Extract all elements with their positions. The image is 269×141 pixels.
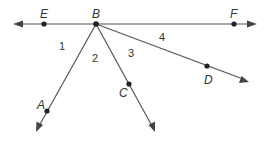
- label-d: D: [204, 73, 213, 87]
- point-a: [44, 108, 49, 113]
- ray-bd: [96, 24, 243, 79]
- label-a: A: [36, 98, 45, 112]
- angle-4: 4: [159, 31, 165, 43]
- geometry-diagram: E B F A C D 1 2 3 4: [0, 0, 269, 141]
- angle-2: 2: [92, 52, 98, 64]
- label-f: F: [230, 7, 238, 21]
- label-e: E: [40, 7, 49, 21]
- point-e: [41, 21, 46, 26]
- label-c: C: [119, 86, 128, 100]
- arrowhead-right: [247, 21, 257, 28]
- ray-bc: [96, 24, 152, 126]
- arrowhead-left: [13, 21, 23, 28]
- arrowhead-a: [36, 122, 43, 133]
- arrowhead-c: [149, 122, 156, 133]
- arrowhead-d: [239, 76, 249, 83]
- point-b: [93, 21, 99, 27]
- point-f: [231, 21, 236, 26]
- point-d: [204, 63, 209, 68]
- angle-1: 1: [59, 40, 65, 52]
- label-b: B: [92, 7, 100, 21]
- angle-3: 3: [128, 47, 134, 59]
